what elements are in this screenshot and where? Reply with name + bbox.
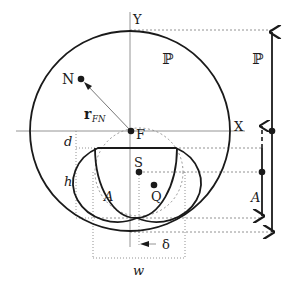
geometry-diagram: Y X N F S Q r FN ℙ ℙ A A d h w δ <box>0 0 290 283</box>
label-dim-w: w <box>133 263 144 278</box>
vector-r-fn <box>87 85 131 131</box>
delta-arrow <box>140 241 149 247</box>
point-n <box>78 76 85 83</box>
label-side-a: A <box>250 190 260 205</box>
guide-lines <box>76 30 272 258</box>
label-point-s: S <box>134 155 143 170</box>
label-y-axis: Y <box>132 12 142 27</box>
label-dim-d: d <box>64 134 72 149</box>
label-side-p: ℙ <box>252 50 264 68</box>
label-point-f: F <box>136 127 145 142</box>
label-x-axis: X <box>234 119 244 134</box>
label-region-p: ℙ <box>162 50 174 68</box>
label-dim-delta: δ <box>162 237 170 252</box>
label-region-a: A <box>103 189 113 204</box>
label-vector-r-subscript: FN <box>91 114 106 124</box>
label-point-q: Q <box>151 189 162 204</box>
label-vector-r: r <box>84 106 92 122</box>
point-f <box>128 128 135 135</box>
label-dim-h: h <box>64 174 72 189</box>
point-q <box>151 182 158 189</box>
label-point-n: N <box>62 71 74 87</box>
